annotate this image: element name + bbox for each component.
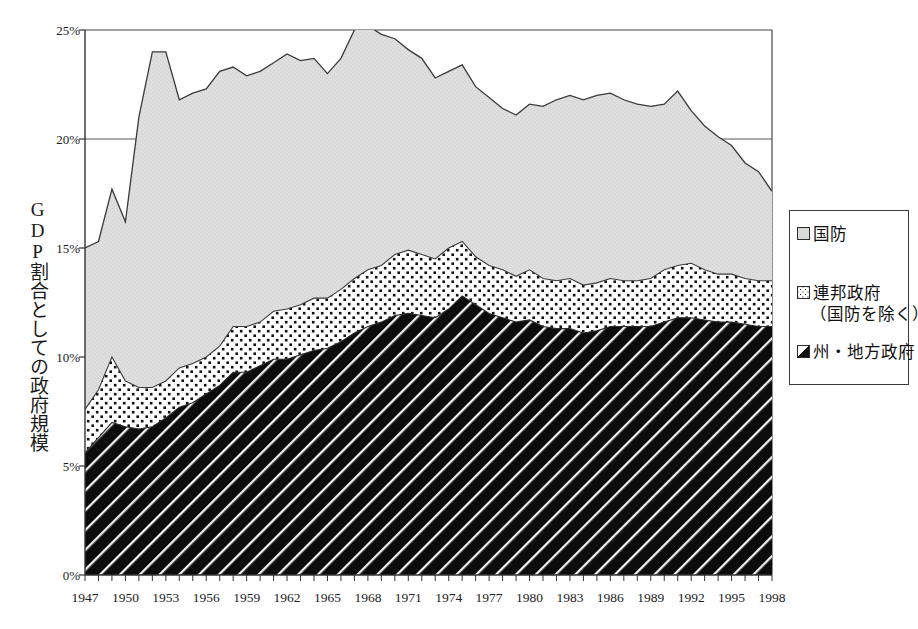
y-tick-label-5: 5% bbox=[36, 459, 80, 475]
x-tick-label-1968: 1968 bbox=[346, 590, 390, 606]
y-tick-label-0: 0% bbox=[36, 568, 80, 584]
x-tick-label-1971: 1971 bbox=[386, 590, 430, 606]
x-tick-label-1950: 1950 bbox=[103, 590, 147, 606]
legend-item-federal[interactable]: 連邦政府 （国防を除く） bbox=[797, 283, 918, 325]
x-tick-label-1992: 1992 bbox=[669, 590, 713, 606]
x-tick-label-1986: 1986 bbox=[588, 590, 632, 606]
y-tick-label-15: 15% bbox=[36, 241, 80, 257]
plot-area bbox=[0, 0, 918, 629]
chart-figure: GDP割合としての政府規模 bbox=[0, 0, 918, 629]
x-tick-label-1947: 1947 bbox=[63, 590, 107, 606]
legend-swatch-state-icon bbox=[797, 345, 810, 358]
legend-label-federal-line2: （国防を除く） bbox=[810, 304, 918, 325]
legend-item-defense[interactable]: 国防 bbox=[797, 224, 847, 245]
y-tick-label-10: 10% bbox=[36, 350, 80, 366]
x-tick-label-1980: 1980 bbox=[508, 590, 552, 606]
x-tick-label-1995: 1995 bbox=[710, 590, 754, 606]
x-tick-marks bbox=[85, 575, 772, 581]
legend-swatch-defense-icon bbox=[797, 227, 810, 240]
legend-item-state[interactable]: 州・地方政府 bbox=[797, 342, 915, 363]
x-tick-label-1998: 1998 bbox=[750, 590, 794, 606]
legend-swatch-federal-icon bbox=[797, 286, 810, 299]
x-tick-label-1989: 1989 bbox=[629, 590, 673, 606]
x-tick-label-1965: 1965 bbox=[305, 590, 349, 606]
x-tick-label-1983: 1983 bbox=[548, 590, 592, 606]
x-tick-label-1962: 1962 bbox=[265, 590, 309, 606]
x-tick-label-1974: 1974 bbox=[427, 590, 471, 606]
y-tick-label-20: 20% bbox=[36, 132, 80, 148]
x-tick-label-1953: 1953 bbox=[144, 590, 188, 606]
x-tick-label-1959: 1959 bbox=[225, 590, 269, 606]
y-tick-label-25: 25% bbox=[36, 23, 80, 39]
legend-label-defense: 国防 bbox=[813, 224, 847, 245]
x-tick-label-1956: 1956 bbox=[184, 590, 228, 606]
y-tick-marks bbox=[79, 30, 85, 575]
chart-legend: 国防 連邦政府 （国防を除く） 州・地方政府 bbox=[789, 210, 909, 385]
legend-label-federal-line1: 連邦政府 bbox=[813, 283, 918, 304]
x-tick-label-1977: 1977 bbox=[467, 590, 511, 606]
legend-label-state: 州・地方政府 bbox=[813, 342, 915, 363]
